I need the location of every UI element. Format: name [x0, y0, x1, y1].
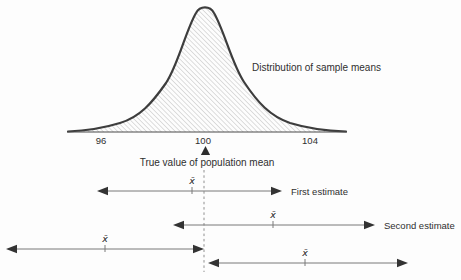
estimate-row: x̄ [6, 233, 204, 253]
sample-mean-symbol: x̄ [101, 233, 108, 244]
estimate-row: x̄Second estimate [173, 209, 455, 231]
estimate-label: Second estimate [384, 220, 455, 231]
diagram-svg: 96 100 104 Distribution of sample means … [0, 0, 461, 280]
axis-tick-100: 100 [195, 135, 211, 146]
mean-pointer-arrow-icon [201, 146, 210, 155]
sample-mean-symbol: x̄ [269, 209, 276, 220]
arrowhead-right-icon [397, 259, 408, 267]
estimates-group: x̄First estimatex̄Second estimatex̄x̄ [6, 175, 455, 267]
arrowhead-right-icon [193, 245, 204, 253]
arrowhead-right-icon [271, 187, 282, 195]
arrowhead-right-icon [364, 221, 375, 229]
arrowhead-left-icon [208, 259, 219, 267]
arrowhead-left-icon [173, 221, 184, 229]
axis-tick-104: 104 [302, 135, 318, 146]
arrowhead-left-icon [6, 245, 17, 253]
figure-canvas: 96 100 104 Distribution of sample means … [0, 0, 461, 280]
distribution-label: Distribution of sample means [252, 62, 381, 73]
estimate-row: x̄ [208, 247, 408, 267]
sample-mean-symbol: x̄ [301, 247, 308, 258]
axis-tick-96: 96 [96, 135, 107, 146]
estimate-label: First estimate [291, 186, 348, 197]
estimate-row: x̄First estimate [97, 175, 348, 197]
sample-mean-symbol: x̄ [188, 175, 195, 186]
arrowhead-left-icon [97, 187, 108, 195]
mean-pointer-label: True value of population mean [140, 157, 275, 168]
